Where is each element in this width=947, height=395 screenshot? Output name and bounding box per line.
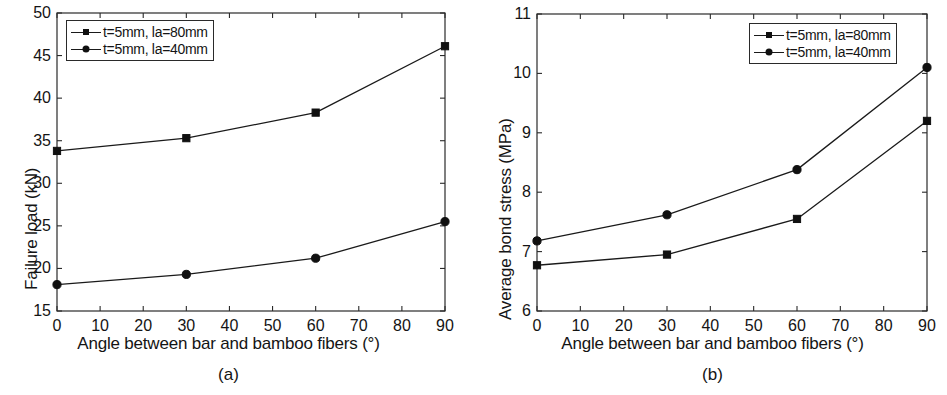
x-axis-label-b: Angle between bar and bamboo fibers (°): [476, 334, 947, 354]
x-tick-label: 10: [571, 317, 589, 335]
y-axis-label-b: Average bond stress (MPa): [496, 118, 516, 320]
x-tick-label: 30: [177, 317, 195, 335]
y-tick-label: 35: [11, 132, 51, 150]
x-tick-label: 20: [134, 317, 152, 335]
y-tick-label: 9: [491, 124, 531, 142]
x-tick-label: 0: [533, 317, 542, 335]
x-tick-label: 20: [615, 317, 633, 335]
y-tick-label: 20: [11, 259, 51, 277]
x-tick-label: 40: [701, 317, 719, 335]
legend-entry-label: t=5mm, la=40mm: [103, 41, 208, 57]
y-tick-label: 45: [11, 47, 51, 65]
legend-entry: t=5mm, la=40mm: [754, 43, 891, 60]
legend-entry: t=5mm, la=80mm: [71, 23, 208, 40]
figure-root: Failure load (kN) Angle between bar and …: [0, 0, 947, 395]
x-tick-label: 70: [831, 317, 849, 335]
legend-entry: t=5mm, la=80mm: [754, 26, 891, 43]
panel-caption-a: (a): [0, 365, 465, 385]
y-tick-label: 7: [491, 243, 531, 261]
legend-entry-label: t=5mm, la=40mm: [786, 44, 891, 60]
y-tick-label: 8: [491, 183, 531, 201]
y-tick-label: 15: [11, 302, 51, 320]
x-tick-label: 80: [875, 317, 893, 335]
legend-b: t=5mm, la=80mm t=5mm, la=40mm: [749, 23, 897, 64]
y-tick-label: 10: [491, 64, 531, 82]
y-tick-label: 25: [11, 217, 51, 235]
x-tick-label: 90: [918, 317, 936, 335]
circle-marker-icon: [754, 45, 784, 59]
circle-marker-icon: [71, 42, 101, 56]
square-marker-icon: [71, 25, 101, 39]
panel-caption-b: (b): [476, 365, 947, 385]
chart-panel-a: Failure load (kN) Angle between bar and …: [0, 0, 473, 395]
square-marker-icon: [754, 28, 784, 42]
x-tick-label: 40: [221, 317, 239, 335]
x-tick-label: 80: [393, 317, 411, 335]
x-tick-label: 30: [658, 317, 676, 335]
x-tick-label: 70: [350, 317, 368, 335]
chart-panel-b: Average bond stress (MPa) Angle between …: [474, 0, 947, 395]
y-tick-label: 50: [11, 4, 51, 22]
x-tick-label: 10: [91, 317, 109, 335]
legend-a: t=5mm, la=80mm t=5mm, la=40mm: [66, 20, 214, 61]
x-tick-label: 50: [264, 317, 282, 335]
y-tick-label: 11: [491, 5, 531, 23]
x-tick-label: 0: [53, 317, 62, 335]
x-tick-label: 60: [307, 317, 325, 335]
legend-entry-label: t=5mm, la=80mm: [786, 27, 891, 43]
legend-entry: t=5mm, la=40mm: [71, 40, 208, 57]
legend-entry-label: t=5mm, la=80mm: [103, 24, 208, 40]
y-tick-label: 30: [11, 174, 51, 192]
y-tick-label: 6: [491, 302, 531, 320]
x-axis-label-a: Angle between bar and bamboo fibers (°): [0, 334, 465, 354]
y-tick-label: 40: [11, 89, 51, 107]
x-tick-label: 60: [788, 317, 806, 335]
x-tick-label: 90: [436, 317, 454, 335]
x-tick-label: 50: [745, 317, 763, 335]
